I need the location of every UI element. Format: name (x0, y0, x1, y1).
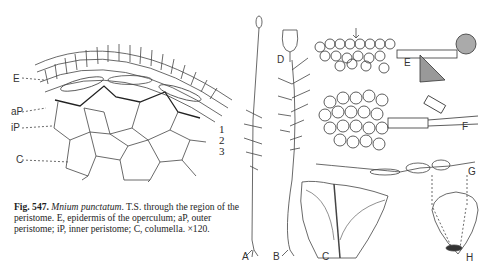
subfigure-label-a: A (242, 252, 249, 262)
subfigure-label-b: B (273, 252, 280, 262)
label-outer-peristome: aP (11, 107, 23, 117)
subfigure-label-c: C (322, 252, 329, 262)
label-inner-peristome: iP (11, 123, 20, 133)
subfigure-label-d: D (277, 55, 284, 65)
subfigure-label-f: F (462, 122, 468, 132)
subfigure-label-e: E (404, 58, 411, 68)
figure-caption: Fig. 547. Mnium punctatum. T.S. through … (14, 201, 246, 235)
layer-number-3: 3 (219, 146, 225, 157)
species-name: Mnium punctatum (51, 201, 121, 212)
label-epidermis: E (13, 74, 20, 84)
subfigure-label-h: H (466, 253, 473, 263)
label-columella: C (16, 155, 23, 165)
figure-number: Fig. 547. (14, 201, 49, 212)
subfigure-label-g: G (468, 167, 476, 177)
